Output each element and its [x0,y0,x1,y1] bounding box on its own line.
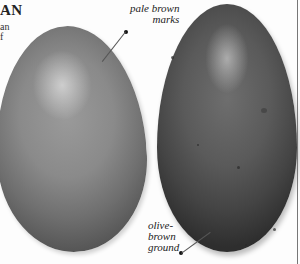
egg-speck [261,108,267,113]
label-line: marks [130,14,179,25]
egg-speck [245,244,247,246]
label-line: ground [148,242,179,253]
egg-speck [197,144,199,146]
body-text-fragment: an f [0,22,9,42]
heading-fragment: AN [0,2,23,19]
egg-speck [237,166,240,169]
page-edge-rule [297,0,298,264]
egg-dark-right [157,4,297,252]
body-line-2: f [0,31,3,42]
label-pale-brown-marks: pale brown marks [130,3,179,25]
egg-speck [171,56,174,59]
label-olive-brown-ground: olive- brown ground [148,220,179,253]
egg-pale-left [0,22,152,256]
egg-speck [273,228,276,231]
book-page: AN an f pale brown marks olive- brown gr… [0,0,300,264]
